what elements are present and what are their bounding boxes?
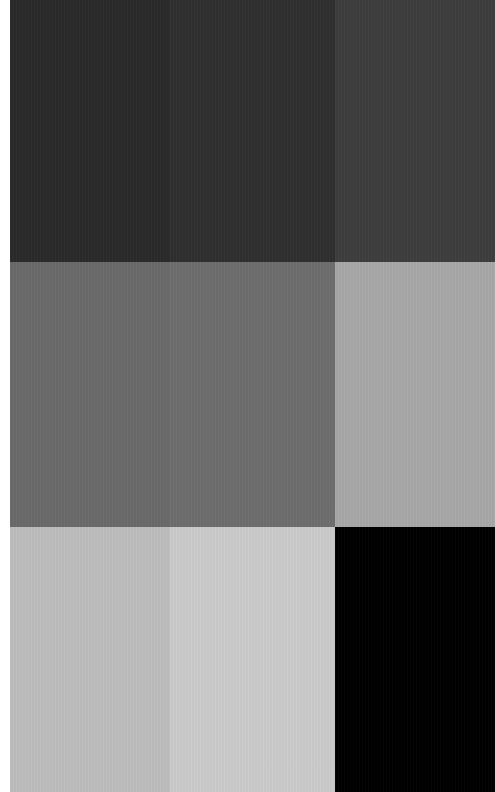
swatch-r0-c1 [170, 0, 335, 262]
swatch-r1-c0 [10, 262, 170, 527]
swatch-r2-c2 [335, 527, 495, 792]
swatch-r0-c2 [335, 0, 495, 262]
swatch-r0-c0 [10, 0, 170, 262]
swatch-r2-c0 [10, 527, 170, 792]
swatch-r1-c1 [170, 262, 335, 527]
swatch-grid [10, 0, 495, 792]
swatch-r1-c2 [335, 262, 495, 527]
swatch-r2-c1 [170, 527, 335, 792]
left-margin-strip [0, 0, 10, 792]
